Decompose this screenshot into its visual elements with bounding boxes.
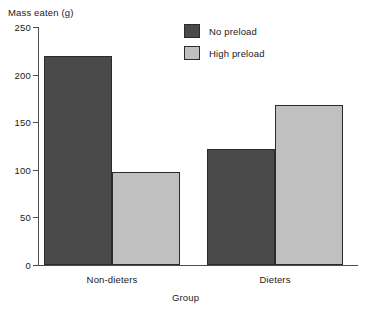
bar [207,149,275,265]
legend-item: No preload [184,24,265,38]
legend-label: High preload [209,48,265,59]
y-axis-tick-label: 50 [20,212,31,223]
y-axis-tick-label: 0 [26,260,31,271]
bar [275,105,343,265]
bar [44,56,112,265]
y-axis-tick-mark [33,170,38,171]
y-axis-tick-mark [33,265,38,266]
y-axis-tick-label: 250 [15,22,31,33]
legend: No preloadHigh preload [184,24,265,68]
y-axis-tick-mark [33,75,38,76]
y-axis-tick-label: 100 [15,164,31,175]
y-axis-tick-mark [33,217,38,218]
bar-chart: Mass eaten (g) 050100150200250 Non-diete… [0,0,371,312]
bar [112,172,180,265]
x-axis-category-label: Dieters [259,274,290,285]
legend-swatch [184,24,200,38]
legend-swatch [184,46,200,60]
x-axis-line [38,265,358,266]
y-axis-title: Mass eaten (g) [8,7,73,18]
x-axis-title: Group [0,292,371,303]
x-axis-category-label: Non-dieters [87,274,138,285]
y-axis-tick-label: 150 [15,117,31,128]
y-axis-tick-mark [33,122,38,123]
legend-label: No preload [209,26,257,37]
y-axis-tick-mark [33,27,38,28]
y-axis-tick-label: 200 [15,69,31,80]
legend-item: High preload [184,46,265,60]
